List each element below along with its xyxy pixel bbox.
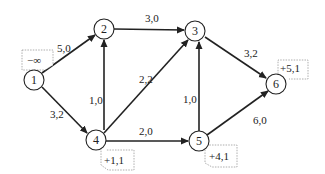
node-tag-1: −∞ xyxy=(22,50,53,70)
node-tag-4: +1,1 xyxy=(101,148,134,170)
edge-label-1-4: 3,2 xyxy=(50,108,64,120)
edge-label-5-3: 1,0 xyxy=(183,93,197,105)
edge-1-4 xyxy=(42,87,87,133)
svg-text:1: 1 xyxy=(31,73,37,87)
edge-4-3 xyxy=(104,40,188,133)
node-6: 6 xyxy=(266,74,286,94)
edge-label-4-5: 2,0 xyxy=(139,125,153,137)
edge-label-4-3: 2,2 xyxy=(139,73,153,85)
node-4: 4 xyxy=(86,130,106,150)
node-2: 2 xyxy=(94,19,114,39)
svg-text:2: 2 xyxy=(101,22,107,36)
edge-label-4-2: 1,0 xyxy=(89,94,103,106)
svg-text:+4,1: +4,1 xyxy=(209,150,229,162)
node-3: 3 xyxy=(185,21,205,41)
edge-label-2-3: 3,0 xyxy=(145,12,159,24)
edge-2-3 xyxy=(114,29,184,30)
svg-text:6: 6 xyxy=(273,77,279,91)
svg-text:4: 4 xyxy=(93,133,99,147)
edge-label-5-6: 6,0 xyxy=(253,114,267,126)
node-5: 5 xyxy=(189,131,209,151)
svg-text:+1,1: +1,1 xyxy=(104,154,124,166)
edge-label-3-6: 3,2 xyxy=(244,47,258,59)
svg-text:+5,1: +5,1 xyxy=(280,62,300,74)
flow-network-diagram: 5,0 3,2 3,0 1,0 2,2 2,0 1,0 3,2 6,0 −∞ +… xyxy=(0,0,325,174)
edge-5-6 xyxy=(207,91,268,135)
node-1: 1 xyxy=(24,70,44,90)
svg-text:−∞: −∞ xyxy=(27,54,41,66)
svg-text:5: 5 xyxy=(196,134,202,148)
svg-text:3: 3 xyxy=(192,24,198,38)
edge-label-1-2: 5,0 xyxy=(57,42,71,54)
node-tag-5: +4,1 xyxy=(205,145,237,167)
